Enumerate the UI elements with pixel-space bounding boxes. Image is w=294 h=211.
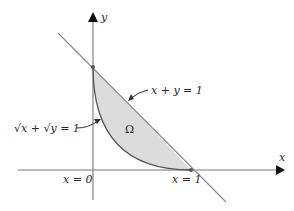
point-0-1 [91,65,95,69]
y-axis-label: y [101,12,107,23]
x-axis-arrow-icon [276,165,285,175]
region-label: Ω [125,124,134,135]
x-one-label: x = 1 [172,174,201,185]
y-axis-arrow-icon [88,12,98,22]
region-diagram [0,0,294,211]
x-zero-label: x = 0 [63,174,92,185]
point-1-0 [189,168,193,172]
line-equation-label: x + y = 1 [151,85,203,96]
curve-pointer-arrow [77,121,98,128]
line-pointer-arrowhead-icon [128,94,134,101]
curve-equation-label: √x + √y = 1 [14,123,80,134]
x-axis-label: x [279,152,285,163]
